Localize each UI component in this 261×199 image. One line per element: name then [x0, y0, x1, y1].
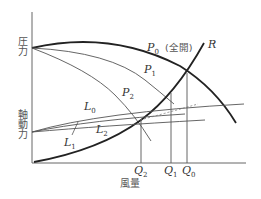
label-r: R — [207, 38, 216, 51]
curve-l0 — [32, 104, 244, 132]
label-q0: Q0 — [182, 164, 196, 179]
label-p0: P0 — [146, 41, 159, 56]
label-q1: Q1 — [164, 164, 178, 179]
label-p1: P1 — [143, 63, 156, 78]
label-p2: P2 — [121, 86, 134, 101]
curve-l2 — [32, 120, 205, 132]
x-label-flow: 風量 — [120, 178, 140, 189]
label-l2: L2 — [95, 123, 108, 138]
label-q2: Q2 — [134, 164, 148, 179]
curve-r — [34, 43, 204, 162]
y-label-pressure: 圧力 — [17, 36, 28, 57]
label-l0: L0 — [83, 100, 96, 115]
curve-l-dashed — [140, 104, 198, 120]
label-p0-note: (全開) — [165, 42, 192, 53]
y-label-power: 軸動力 — [17, 108, 28, 140]
curve-p0 — [32, 42, 236, 123]
fan-characteristic-diagram: 圧力 軸動力 風量 P0 (全開) R P1 P2 L0 L2 L1 Q2 Q1… — [0, 0, 261, 199]
label-l1: L1 — [63, 136, 76, 151]
